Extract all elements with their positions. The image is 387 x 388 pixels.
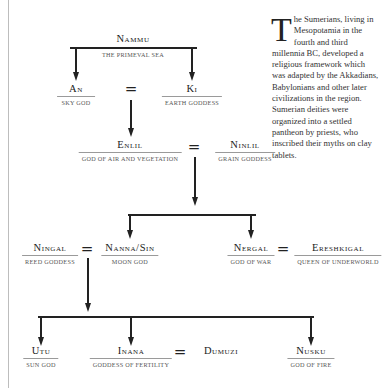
branch-line-nammu (70, 47, 197, 49)
drop-cap: T (271, 16, 292, 44)
arrow-down-icon (192, 197, 198, 206)
node-name: An (57, 83, 95, 95)
node-desc: Queen of Underworld (294, 258, 381, 266)
node-nanna: Nanna/Sin Moon God (101, 242, 158, 266)
node-ninlil: Ninlil Grain Goddess (215, 139, 275, 163)
branch-line-enlil (128, 214, 256, 216)
node-desc: Grain Goddess (215, 155, 275, 163)
connector-line (130, 317, 132, 338)
connector-line (87, 258, 89, 304)
page-margin-rule (8, 0, 9, 388)
name-rule (23, 358, 58, 359)
node-nergal: Nergal God of War (227, 242, 274, 266)
node-name: Dumuzi (200, 345, 242, 357)
intro-paragraph: The Sumerians, living in Mesopotamia in … (272, 14, 380, 161)
node-name: Utu (23, 345, 58, 357)
node-desc: Moon God (101, 258, 158, 266)
name-rule (162, 96, 222, 97)
node-name: Ningal (22, 242, 78, 254)
arrow-down-icon (73, 72, 79, 81)
name-rule (101, 255, 158, 256)
node-dumuzi: Dumuzi (200, 345, 242, 357)
name-rule (22, 255, 78, 256)
connector-line (130, 100, 132, 129)
node-name: Nammu (112, 33, 153, 45)
node-desc: Goddess of Fertility (90, 361, 172, 369)
node-name: Nergal (227, 242, 274, 254)
arrow-down-icon (127, 230, 133, 239)
node-name: Inana (90, 345, 172, 357)
node-desc: Earth Goddess (162, 99, 222, 107)
node-name: Nusku (287, 345, 334, 357)
name-rule (215, 152, 275, 153)
arrow-down-icon (248, 230, 254, 239)
marriage-symbol: = (174, 345, 187, 360)
node-desc: God of Fire (287, 361, 334, 369)
connector-line (310, 317, 312, 338)
node-ningal: Ningal Reed Goddess (22, 242, 78, 266)
arrow-down-icon (189, 72, 195, 81)
arrow-down-icon (128, 128, 134, 137)
node-name: Enlil (79, 139, 182, 151)
node-nammu-desc: The Primeval Sea (99, 51, 167, 59)
node-desc: The Primeval Sea (99, 51, 167, 59)
node-enlil: Enlil God of Air and Vegetation (79, 139, 182, 163)
node-inana: Inana Goddess of Fertility (90, 345, 172, 369)
marriage-symbol: = (188, 140, 201, 155)
marriage-symbol: = (81, 242, 94, 257)
node-desc: Sun God (23, 361, 58, 369)
connector-line (75, 48, 77, 72)
name-rule (227, 255, 274, 256)
connector-line (250, 215, 252, 231)
node-name: Ninlil (215, 139, 275, 151)
node-ereshkigal: Ereshkigal Queen of Underworld (294, 242, 381, 266)
name-rule (57, 96, 95, 97)
node-nammu: Nammu (112, 33, 153, 45)
branch-line-nanna (38, 316, 314, 318)
node-desc: God of War (227, 258, 274, 266)
node-name: Ki (162, 83, 222, 95)
connector-line (194, 157, 196, 198)
node-name: Nanna/Sin (101, 242, 158, 254)
connector-line (191, 48, 193, 72)
connector-line (40, 317, 42, 338)
node-utu: Utu Sun God (23, 345, 58, 369)
connector-line (129, 215, 131, 231)
name-rule (90, 358, 172, 359)
node-an: An Sky God (57, 83, 95, 107)
name-rule (79, 152, 182, 153)
node-desc: God of Air and Vegetation (79, 155, 182, 163)
arrow-down-icon (85, 303, 91, 312)
node-nusku: Nusku God of Fire (287, 345, 334, 369)
node-name: Ereshkigal (294, 242, 381, 254)
node-desc: Sky God (57, 99, 95, 107)
node-desc: Reed Goddess (22, 258, 78, 266)
marriage-symbol: = (277, 242, 290, 257)
name-rule (287, 358, 334, 359)
name-rule (294, 255, 381, 256)
node-ki: Ki Earth Goddess (162, 83, 222, 107)
marriage-symbol: = (125, 82, 138, 97)
